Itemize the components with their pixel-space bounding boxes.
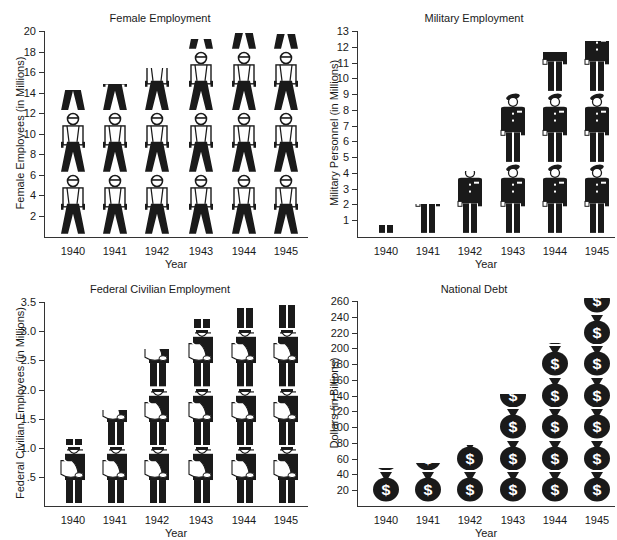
svg-text:$: $ (466, 482, 475, 498)
pictograph-column (541, 52, 569, 233)
mail-carrier-icon (100, 410, 130, 445)
mail-carrier-icon (229, 308, 259, 328)
pictograph-column (271, 305, 301, 503)
y-tick (39, 216, 44, 217)
x-axis-title: Year (146, 258, 206, 270)
y-tick (352, 474, 357, 475)
y-axis-title: Military Personnel (in Millions) (328, 33, 340, 233)
y-tick (39, 360, 44, 361)
mail-carrier-icon (142, 389, 172, 445)
svg-text:$: $ (424, 463, 433, 467)
mail-carrier-icon (271, 330, 301, 386)
money-bag-icon: $ (539, 409, 571, 439)
y-tick (352, 47, 357, 48)
female-worker-icon (56, 174, 90, 234)
y-tick (352, 301, 357, 302)
money-bag-icon: $ (581, 315, 613, 345)
y-tick (352, 157, 357, 158)
money-bag-icon: $ (539, 441, 571, 471)
female-worker-icon (56, 90, 90, 111)
soldier-icon (583, 164, 611, 233)
y-tick (352, 364, 357, 365)
x-tick-label: 1943 (493, 245, 533, 257)
pictograph-column (98, 84, 132, 234)
svg-text:$: $ (424, 482, 433, 498)
x-tick-label: 1941 (95, 245, 135, 257)
y-tick (352, 490, 357, 491)
x-tick-label: 1942 (450, 514, 490, 526)
money-bag-icon: $ (497, 441, 529, 471)
pictograph-column (142, 349, 172, 504)
y-tick (352, 31, 357, 32)
y-tick (352, 443, 357, 444)
money-bag-icon: $ (581, 441, 613, 471)
pictograph-column: $ $ (454, 445, 486, 502)
x-tick-label: 1942 (450, 245, 490, 257)
pictograph-column: $ $ $ $ $ $ $ (581, 298, 613, 502)
svg-text:$: $ (551, 450, 560, 466)
y-tick (352, 459, 357, 460)
x-tick-label: 1944 (535, 514, 575, 526)
y-tick (352, 380, 357, 381)
y-axis-line (44, 302, 45, 506)
x-tick-label: 1945 (577, 245, 617, 257)
y-tick (39, 72, 44, 73)
female-worker-icon (184, 51, 218, 111)
y-tick (352, 78, 357, 79)
soldier-icon (456, 171, 484, 232)
y-tick (352, 220, 357, 221)
x-axis-line (357, 237, 615, 238)
y-axis-line (44, 31, 45, 237)
y-tick (39, 477, 44, 478)
pictograph-column (456, 171, 484, 232)
y-tick (352, 189, 357, 190)
mail-carrier-icon (186, 330, 216, 386)
y-tick (352, 204, 357, 205)
x-tick-label: 1944 (535, 245, 575, 257)
money-bag-icon: $ (581, 409, 613, 439)
money-bag-icon: $ (497, 472, 529, 502)
svg-text:$: $ (593, 482, 602, 498)
y-axis-line (357, 301, 358, 506)
soldier-icon (541, 52, 569, 91)
money-bag-icon: $ (454, 445, 486, 470)
y-tick (352, 317, 357, 318)
female-worker-icon (98, 84, 132, 111)
chart-title: Female Employment (60, 12, 260, 24)
y-tick (39, 113, 44, 114)
x-axis-line (44, 506, 308, 507)
y-tick (352, 411, 357, 412)
money-bag-icon: $ (539, 346, 571, 376)
mail-carrier-icon (229, 330, 259, 386)
pictograph-column (227, 33, 261, 233)
y-tick (39, 302, 44, 303)
y-tick (39, 448, 44, 449)
female-worker-icon (140, 112, 174, 172)
svg-text:$: $ (382, 482, 391, 498)
y-tick (39, 331, 44, 332)
female-worker-icon (140, 174, 174, 234)
female-worker-icon (184, 174, 218, 234)
mail-carrier-icon (271, 389, 301, 445)
y-tick (39, 93, 44, 94)
x-tick-label: 1943 (493, 514, 533, 526)
y-axis-title: Dollars (in Billions) (328, 303, 340, 503)
money-bag-icon: $ (370, 472, 402, 502)
mail-carrier-icon (229, 389, 259, 445)
y-tick (39, 175, 44, 176)
x-tick-label: 1945 (266, 514, 306, 526)
svg-text:$: $ (593, 387, 602, 403)
pictograph-column (58, 439, 88, 503)
pictograph-column (229, 308, 259, 503)
pictograph-column (100, 410, 130, 503)
money-bag-icon: $ (581, 378, 613, 408)
female-worker-icon (227, 51, 261, 111)
x-axis-line (357, 506, 615, 507)
mail-carrier-icon (142, 447, 172, 503)
y-tick (352, 173, 357, 174)
y-tick (352, 427, 357, 428)
svg-text:$: $ (509, 394, 518, 404)
female-worker-icon (184, 39, 218, 48)
pictograph-column (583, 41, 611, 233)
female-worker-icon (98, 112, 132, 172)
